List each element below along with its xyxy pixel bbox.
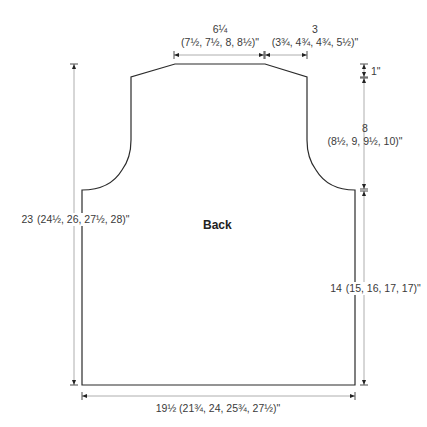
shoulder-width-sizes: (3¾, 4¾, 4¾, 5½)" [255,36,375,49]
shoulder-slope-main: 1" [371,65,381,78]
arrow-up-icon [362,78,366,83]
bottom-width-dimension [82,392,355,400]
side-length-main: 14 [329,282,343,295]
total-length-main: 23 [20,213,34,226]
arrow-down-icon [72,380,76,385]
arrow-up-icon [362,191,366,196]
arrow-right-icon [259,53,264,57]
arrow-left-icon [174,53,179,57]
arrow-down-icon [362,380,366,385]
arrow-up-icon [72,64,76,69]
piece-title: Back [203,218,232,232]
armhole-depth-main: 8 [310,122,420,135]
armhole-depth-sizes: (8½, 9, 9½, 10)" [310,135,420,148]
arrow-left-icon [265,53,270,57]
arrow-down-icon [362,72,366,77]
shoulder-width-dimension [265,51,307,59]
bottom-width-main: 19½ (21¾, 24, 25¾, 27½)" [118,402,318,415]
arrow-right-icon [302,53,307,57]
shoulder-width-label: 3 (3¾, 4¾, 4¾, 5½)" [255,23,375,49]
side-length-label: 14 (15, 16, 17, 17)" [320,282,427,295]
arrow-down-icon [362,184,366,189]
arrow-left-icon [82,394,87,398]
total-length-sizes: (24½, 26, 27½, 28)" [37,213,129,226]
side-length-sizes: (15, 16, 17, 17)" [346,282,421,295]
shoulder-width-main: 3 [255,23,375,36]
neck-width-dimension [174,51,264,59]
arrow-up-icon [362,64,366,69]
bottom-width-label: 19½ (21¾, 24, 25¾, 27½)" [118,402,318,415]
shoulder-slope-label: 1" [371,65,381,78]
arrow-right-icon [350,394,355,398]
total-length-label: 23 (24½, 26, 27½, 28)" [0,213,150,226]
armhole-depth-label: 8 (8½, 9, 9½, 10)" [310,122,420,148]
schematic-diagram: 6¼ (7½, 7½, 8, 8½)" 3 (3¾, 4¾, 4¾, 5½)" … [0,0,427,427]
shoulder-slope-dimension [360,64,368,77]
